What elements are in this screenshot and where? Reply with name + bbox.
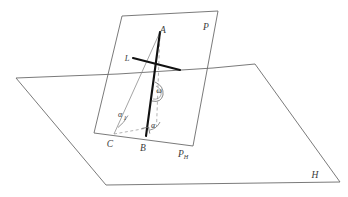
label-plane-p: P: [202, 22, 209, 32]
label-vertex-c: C: [107, 139, 114, 149]
label-angle-alpha: α: [151, 121, 156, 130]
label-angle-alpha1: α: [118, 110, 123, 119]
label-angle-alpha1-subscript: 1: [123, 114, 126, 121]
label-plane-ph-subscript: H: [183, 153, 189, 160]
geometry-canvas: A B C L P P H H α α 1 ω: [0, 0, 348, 197]
vertical-plane-p: [94, 11, 218, 146]
label-vertex-b: B: [140, 143, 146, 153]
label-angle-omega: ω: [156, 86, 162, 95]
label-line-l: L: [124, 53, 130, 63]
label-plane-h: H: [311, 170, 320, 180]
geometry-figure: A B C L P P H H α α 1 ω: [0, 0, 348, 197]
label-vertex-a: A: [159, 25, 166, 35]
horizontal-plane-h: [16, 64, 340, 185]
